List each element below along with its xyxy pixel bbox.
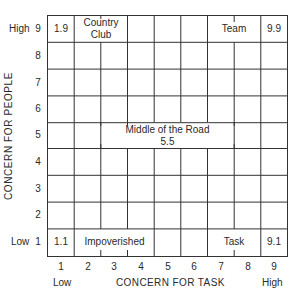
- middle-of-the-road-code: 5.5: [101, 136, 234, 148]
- y-axis-low-label: Low: [11, 236, 29, 247]
- impoverished-code: 1.1: [48, 236, 74, 248]
- y-tick-7: 7: [31, 77, 45, 88]
- y-tick-9: 9: [31, 23, 45, 34]
- x-axis-title: CONCERN FOR TASK: [116, 277, 225, 288]
- impoverished-label: Impoverished: [75, 236, 154, 248]
- x-tick-7: 7: [214, 261, 228, 272]
- country-club-line2: Club: [75, 29, 127, 41]
- x-tick-9: 9: [267, 261, 281, 272]
- x-tick-8: 8: [241, 261, 255, 272]
- middle-of-the-road-name: Middle of the Road: [101, 124, 234, 136]
- y-tick-5: 5: [31, 129, 45, 140]
- y-tick-3: 3: [31, 183, 45, 194]
- x-axis-low-label: Low: [53, 277, 71, 288]
- task-code: 9.1: [261, 236, 287, 248]
- team-label: Team: [208, 23, 260, 35]
- x-tick-6: 6: [187, 261, 201, 272]
- country-club-label: Country Club: [75, 17, 127, 41]
- y-tick-4: 4: [31, 156, 45, 167]
- x-tick-1: 1: [54, 261, 68, 272]
- y-tick-8: 8: [31, 50, 45, 61]
- y-tick-1: 1: [31, 236, 45, 247]
- x-tick-4: 4: [134, 261, 148, 272]
- x-tick-5: 5: [161, 261, 175, 272]
- middle-of-the-road-label: Middle of the Road 5.5: [101, 124, 234, 148]
- country-club-code: 1.9: [48, 23, 74, 35]
- x-tick-2: 2: [81, 261, 95, 272]
- y-tick-2: 2: [31, 209, 45, 220]
- y-axis-high-label: High: [9, 23, 30, 34]
- y-axis-title: CONCERN FOR PEOPLE: [3, 72, 14, 200]
- y-tick-6: 6: [31, 103, 45, 114]
- task-label: Task: [208, 236, 260, 248]
- x-axis-high-label: High: [262, 277, 283, 288]
- team-code: 9.9: [261, 23, 287, 35]
- country-club-line1: Country: [75, 17, 127, 29]
- x-tick-3: 3: [107, 261, 121, 272]
